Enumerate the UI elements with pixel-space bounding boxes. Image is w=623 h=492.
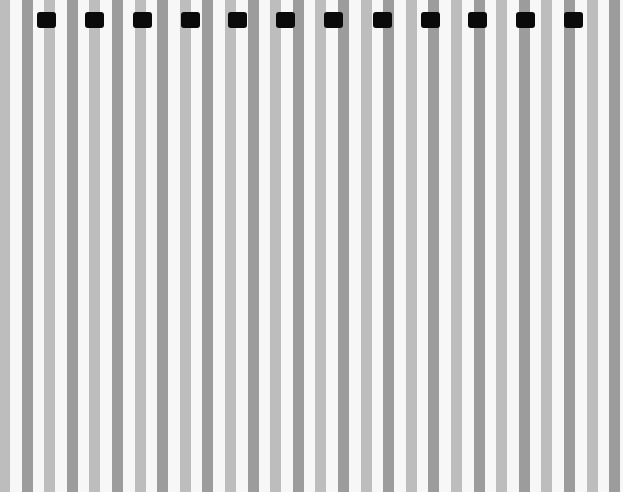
stripe [67,0,78,492]
stripe [315,0,326,492]
black-square-marker [324,12,343,28]
stripe [496,0,507,492]
stripe [0,0,10,492]
black-square-marker [373,12,392,28]
black-square-marker [228,12,247,28]
stripe [225,0,236,492]
stripe [157,0,168,492]
stripe [112,0,123,492]
stripe [451,0,462,492]
black-square-marker [276,12,295,28]
stripe [270,0,281,492]
black-square-marker [181,12,200,28]
black-square-marker [421,12,440,28]
stripe [609,0,620,492]
black-square-marker [516,12,535,28]
stripe [564,0,575,492]
black-square-marker [85,12,104,28]
stripe [406,0,417,492]
black-square-marker [468,12,487,28]
marker-row [0,0,623,40]
stripe [22,0,33,492]
stripe [202,0,213,492]
stripe [180,0,191,492]
stripe [338,0,349,492]
stripe [519,0,530,492]
stripe [541,0,552,492]
stripe [89,0,100,492]
vertical-stripe-pattern [0,0,623,492]
stripe [428,0,439,492]
black-square-marker [37,12,56,28]
black-square-marker [564,12,583,28]
stripe [248,0,259,492]
black-square-marker [133,12,152,28]
stripe [44,0,55,492]
stripe [293,0,304,492]
stripe [135,0,146,492]
stripe [474,0,485,492]
stripe [587,0,598,492]
stripe [361,0,372,492]
stripe [383,0,394,492]
